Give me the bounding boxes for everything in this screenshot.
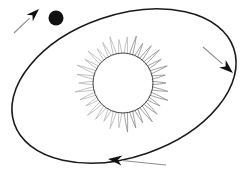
arrow-top-left <box>14 9 39 33</box>
sun-ray <box>152 81 166 84</box>
sun-ray <box>119 112 122 128</box>
sun-ray <box>79 81 94 84</box>
sun-ray <box>110 111 117 129</box>
sun-ray <box>152 87 168 92</box>
orbit-ellipse-path <box>0 0 242 175</box>
sun-core-circle <box>93 53 153 113</box>
arrow-head <box>219 60 233 73</box>
sun-ray <box>87 102 102 116</box>
sun-ray <box>150 66 167 74</box>
sun-ray <box>152 75 166 79</box>
sun-ray <box>75 87 94 92</box>
sun-ray <box>110 37 117 55</box>
sun-ray <box>135 109 143 123</box>
sun-ray <box>119 40 122 54</box>
planet-body <box>49 11 64 26</box>
sun-ray <box>129 36 136 55</box>
sun-ray <box>150 92 168 100</box>
sun-ray <box>80 92 96 100</box>
arrow-tail <box>14 18 30 33</box>
sun-ray <box>88 51 102 64</box>
arrow-right <box>203 47 233 73</box>
arrow-tail <box>203 47 222 64</box>
sun-rays <box>75 36 168 132</box>
orbit-diagram: Planet orbiting the Sun on an elliptical… <box>0 0 242 175</box>
sun-ray <box>124 112 128 132</box>
sun-ray <box>144 50 160 65</box>
sun-ray <box>135 43 143 57</box>
arrow-tail <box>122 160 166 165</box>
sun-ray <box>77 74 94 79</box>
sun-ray <box>129 111 135 128</box>
orbit-diagram-canvas: Planet orbiting the Sun on an elliptical… <box>0 0 242 175</box>
direction-arrows <box>14 9 233 165</box>
sun-ray <box>124 37 127 54</box>
